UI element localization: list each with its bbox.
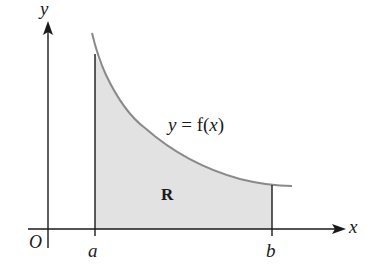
x-axis-label: x bbox=[348, 216, 358, 237]
area-under-curve-diagram: y x O a b y = f(x) R bbox=[0, 0, 378, 280]
y-axis-label: y bbox=[38, 0, 49, 19]
curve-label-close: ) bbox=[218, 114, 224, 136]
region-label: R bbox=[161, 185, 174, 204]
curve-label: y = f(x) bbox=[166, 114, 224, 136]
curve-label-eq: = f( bbox=[176, 114, 209, 136]
curve-label-lhs: y bbox=[166, 114, 177, 135]
origin-label: O bbox=[29, 232, 42, 252]
region-r-shading bbox=[95, 54, 272, 229]
bound-a-label: a bbox=[88, 240, 98, 261]
bound-b-label: b bbox=[266, 240, 276, 261]
